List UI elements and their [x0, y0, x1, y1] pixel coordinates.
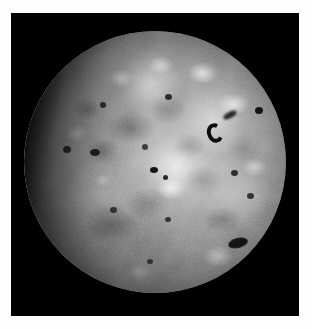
terminator-shading	[24, 31, 286, 293]
space-background	[11, 13, 299, 316]
photo-frame	[0, 0, 312, 329]
moon-disk	[24, 31, 286, 293]
